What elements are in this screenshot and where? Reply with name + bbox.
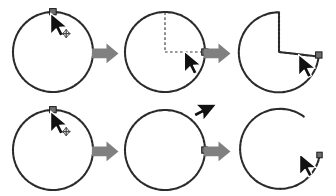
move-cross-icon (62, 29, 70, 37)
move-cursor (51, 13, 68, 36)
arc-sequence-row (0, 98, 336, 196)
move-cursor (51, 111, 68, 134)
pie-step-3-panel (224, 0, 336, 98)
pie-sequence-row (0, 0, 336, 98)
arc-step-3-panel (224, 98, 336, 196)
arrow-cursor (184, 51, 201, 74)
circle-shape[interactable] (125, 110, 205, 190)
move-cross-icon (62, 127, 70, 135)
pie-wedge-shape[interactable] (239, 12, 319, 92)
resize-handle-arc-end[interactable] (317, 152, 322, 158)
figure-root (0, 0, 336, 196)
open-arc-shape[interactable] (240, 109, 319, 189)
resize-handle-wedge-end[interactable] (316, 52, 322, 58)
arrow-cursor (300, 154, 317, 177)
